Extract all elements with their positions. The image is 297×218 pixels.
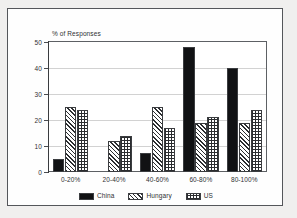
bar-china-40-60	[140, 153, 152, 173]
x-axis-tick-label: 60-80%	[179, 176, 222, 184]
legend-label: China	[97, 192, 114, 200]
x-axis-tick-label: 20-40%	[92, 176, 135, 184]
x-axis-tick-label: 0-20%	[49, 176, 92, 184]
bar-china-80-100	[227, 68, 239, 172]
bar-us-40-60	[164, 128, 176, 172]
bar-group	[183, 42, 219, 172]
y-axis-tick-label: 10	[12, 143, 42, 150]
y-axis-title: % of Responses	[52, 30, 101, 37]
y-axis-tick-labels: 01020304050	[8, 9, 42, 207]
bar-hungary-60-80	[195, 123, 207, 172]
bar-group	[53, 42, 89, 172]
figure-root: % of Responses 01020304050 0-20%20-40%40…	[0, 0, 297, 218]
bar-group	[140, 42, 176, 172]
bar-china-60-80	[183, 47, 195, 172]
legend-swatch-icon	[186, 193, 201, 200]
bar-hungary-20-40	[108, 141, 120, 172]
bar-us-0-20	[77, 110, 89, 172]
bar-us-60-80	[207, 117, 219, 172]
bar-group	[227, 42, 263, 172]
bar-hungary-40-60	[152, 107, 164, 172]
legend-swatch-icon	[128, 193, 143, 200]
bar-group	[96, 42, 132, 172]
bar-chart: % of Responses 01020304050 0-20%20-40%40…	[8, 9, 284, 207]
x-axis-tick-label: 40-60%	[136, 176, 179, 184]
x-axis-tick-labels: 0-20%20-40%40-60%60-80%80-100%	[49, 176, 266, 188]
legend-item-us: US	[186, 192, 213, 200]
figure-frame: % of Responses 01020304050 0-20%20-40%40…	[7, 8, 283, 206]
y-axis-tick-label: 50	[12, 39, 42, 46]
legend-item-china: China	[79, 192, 114, 200]
y-axis-tick-label: 20	[12, 117, 42, 124]
x-axis-tick-label: 80-100%	[223, 176, 266, 184]
y-axis-tick-label: 0	[12, 169, 42, 176]
legend-label: US	[204, 192, 213, 200]
bar-hungary-80-100	[239, 123, 251, 172]
chart-legend: ChinaHungaryUS	[8, 192, 284, 200]
bar-us-20-40	[120, 136, 132, 172]
bar-china-0-20	[53, 159, 65, 172]
y-axis-tick-label: 40	[12, 65, 42, 72]
bars-layer	[49, 42, 266, 172]
legend-swatch-icon	[79, 193, 94, 200]
y-axis-tick-label: 30	[12, 91, 42, 98]
bar-hungary-0-20	[65, 107, 77, 172]
bar-us-80-100	[251, 110, 263, 172]
legend-label: Hungary	[146, 192, 171, 200]
legend-item-hungary: Hungary	[128, 192, 171, 200]
